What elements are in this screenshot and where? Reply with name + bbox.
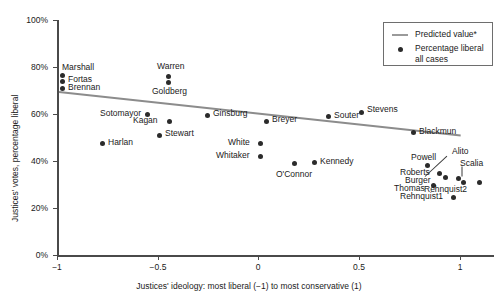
point-label-whitaker: Whitaker (216, 150, 250, 160)
point-label-oconnor: O'Connor (276, 169, 312, 179)
y-tick-40 (53, 161, 57, 162)
x-tick-neg1 (57, 256, 58, 260)
x-tick-0 (258, 256, 259, 260)
point-label-brennan: Brennan (68, 82, 100, 92)
point-marshall (60, 73, 65, 78)
x-tick-label-neg1: −1 (37, 263, 77, 272)
point-burger (443, 175, 448, 180)
x-tick-05 (359, 256, 360, 260)
legend-label-predicted-value: Predicted value* (415, 29, 477, 40)
point-label-white: White (228, 137, 250, 147)
point-label-ginsburg: Ginsburg (213, 108, 248, 118)
scatter-chart: 100% 80% 60% 40% 20% 0% −1 −0.5 0 0.5 1 … (0, 0, 498, 303)
point-scalia (477, 180, 482, 185)
legend-marker-dot (398, 47, 403, 52)
point-alito (456, 176, 461, 181)
point-fortas (60, 79, 65, 84)
point-label-kennedy: Kennedy (320, 156, 354, 166)
x-tick-neg05 (158, 256, 159, 260)
point-label-marshall: Marshall (62, 62, 94, 72)
point-oconnor (292, 161, 297, 166)
point-ginsburg (205, 113, 210, 118)
legend-marker-line (392, 34, 408, 36)
point-whitaker (258, 154, 263, 159)
y-tick-label-80: 80% (8, 63, 48, 72)
y-tick-label-0: 0% (8, 251, 48, 260)
point-label-stevens: Stevens (367, 104, 398, 114)
point-white (258, 141, 263, 146)
point-goldberg (166, 80, 171, 85)
y-axis (57, 20, 59, 256)
point-roberts (437, 171, 442, 176)
x-tick-label-neg05: −0.5 (138, 263, 178, 272)
point-label-alito: Alito (452, 146, 469, 156)
point-stevens (359, 110, 364, 115)
point-label-warren: Warren (157, 61, 185, 71)
y-axis-title: Justices' votes, percentage liberal (10, 95, 20, 222)
point-kennedy (312, 160, 317, 165)
point-label-souter: Souter (334, 110, 359, 120)
point-label-stewart: Stewart (165, 128, 194, 138)
point-label-powell: Powell (411, 152, 436, 162)
point-brennan (60, 86, 65, 91)
point-harlan (100, 141, 105, 146)
point-breyer (264, 119, 269, 124)
point-label-scalia: Scalia (460, 158, 483, 168)
point-souter (326, 114, 331, 119)
x-tick-1 (460, 256, 461, 260)
x-tick-label-05: 0.5 (339, 263, 379, 272)
y-tick-20 (53, 208, 57, 209)
y-tick-100 (53, 20, 57, 21)
point-stewart (157, 133, 162, 138)
x-tick-label-0: 0 (238, 263, 278, 272)
y-tick-60 (53, 114, 57, 115)
point-label-kagan: Kagan (133, 115, 158, 125)
y-tick-label-100: 100% (8, 16, 48, 25)
x-axis-title: Justices' ideology: most liberal (−1) to… (0, 281, 498, 291)
point-label-rehnquist2: Rehnquist2 (424, 184, 467, 194)
legend: Predicted value* Percentage liberalall c… (383, 22, 493, 66)
point-blackmun (411, 130, 416, 135)
point-label-blackmun: Blackmun (419, 126, 456, 136)
x-axis (57, 255, 494, 257)
y-tick-80 (53, 67, 57, 68)
x-tick-label-1: 1 (440, 263, 480, 272)
scalia-leader-line (462, 167, 463, 177)
legend-label-percentage-liberal: Percentage liberalall cases (415, 43, 484, 65)
point-kagan (167, 119, 172, 124)
point-label-harlan: Harlan (108, 137, 133, 147)
point-label-goldberg: Goldberg (152, 86, 187, 96)
point-rehnquist1 (451, 195, 456, 200)
point-label-breyer: Breyer (272, 114, 297, 124)
point-warren (166, 74, 171, 79)
